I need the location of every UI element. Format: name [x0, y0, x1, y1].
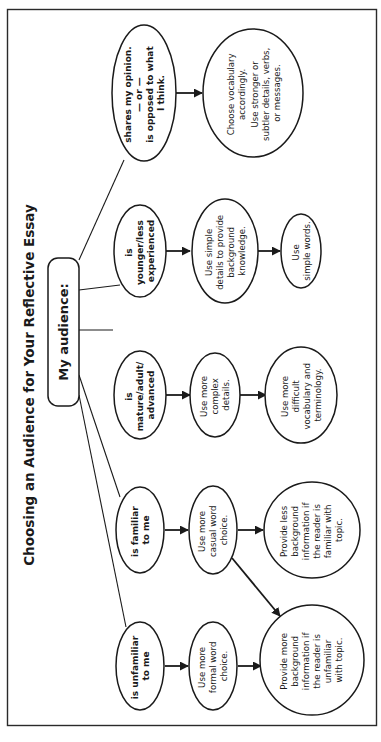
svg-text:Provide more background: Provide more background information if t…: [279, 630, 344, 690]
svg-text:Use more complex d: Use more complex details.: [199, 373, 231, 417]
root-label: My audience:: [56, 283, 71, 381]
condition-node-opinion: shares my opinion. — or — is opposed to …: [112, 25, 176, 161]
root-node: My audience:: [48, 258, 79, 406]
condition-node-mature: is mature/adult/ advanced: [114, 351, 166, 439]
action-node-difficult-vocabulary: Use more difficult vocabulary and termin…: [265, 347, 337, 443]
action-node-less-background: Provide less background information if t…: [264, 482, 360, 578]
diagram-title: Choosing an Audience for Your Reflective…: [21, 204, 37, 566]
audience-diagram: Choosing an Audience for Your Reflective…: [0, 0, 381, 742]
action-node-formal-word-choice: Use more formal word choice.: [189, 622, 237, 710]
action-node-complex-details: Use more complex details.: [190, 353, 240, 437]
arrows-row2-row3: [232, 251, 280, 666]
action-node-simple-details: Use simple details to provide background…: [192, 199, 258, 303]
action-node-more-background: Provide more background information if t…: [260, 605, 364, 715]
condition-node-younger: is younger/less experienced: [114, 205, 166, 297]
condition-node-unfamiliar: is unfamiliar to me: [116, 622, 164, 710]
action-node-simple-words: Use simple words.: [281, 214, 321, 288]
condition-node-familiar: is familiar to me: [116, 487, 164, 573]
action-node-casual-word-choice: Use more casual word choice.: [189, 486, 237, 574]
action-node-choose-vocabulary: Choose vocabulary accordingly. Use stron…: [203, 29, 303, 157]
